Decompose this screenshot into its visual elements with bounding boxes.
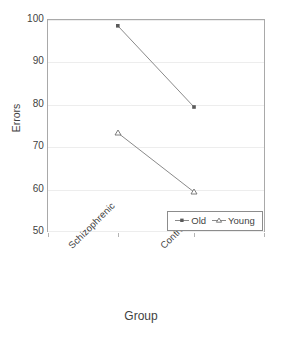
y-tick-label-100: 100: [0, 14, 44, 24]
legend-marker-old-icon: [175, 216, 189, 226]
line-chart: 100 90 80 70 60 50 Errors Schizophrenic …: [0, 0, 282, 339]
y-axis-title: Errors: [10, 88, 22, 148]
gridline-90: [48, 62, 264, 63]
x-tick-mark-right-edge: [264, 233, 265, 237]
x-tick-mark-schizophrenic: [118, 233, 119, 237]
legend: Old Young: [167, 211, 263, 231]
gridline-70: [48, 147, 264, 148]
gridline-60: [48, 190, 264, 191]
y-tick-label-50: 50: [0, 226, 44, 236]
gridline-80: [48, 105, 264, 106]
y-tick-label-70: 70: [0, 141, 44, 151]
plot-area: [47, 19, 265, 232]
x-axis-title: Group: [0, 309, 282, 323]
gridline-100: [48, 20, 264, 21]
y-tick-label-90: 90: [0, 56, 44, 66]
y-tick-label-80: 80: [0, 99, 44, 109]
x-tick-mark-control: [194, 233, 195, 237]
legend-entry-young: Young: [212, 216, 255, 226]
legend-entry-old: Old: [175, 216, 206, 226]
x-tick-mark-left-edge: [48, 233, 49, 237]
legend-label-old: Old: [191, 216, 206, 226]
legend-marker-young-icon: [212, 216, 226, 226]
legend-label-young: Young: [228, 216, 255, 226]
y-axis: 100 90 80 70 60 50: [0, 0, 44, 339]
y-tick-label-60: 60: [0, 184, 44, 194]
